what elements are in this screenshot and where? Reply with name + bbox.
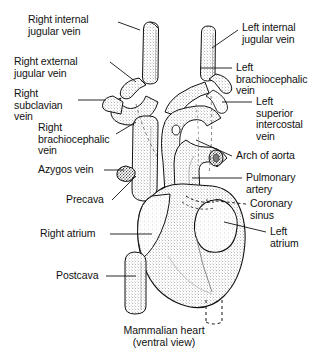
label-right-external-jugular-vein: Right external jugular vein [14, 56, 77, 79]
label-right-brachiocephalic-vein: Right brachiocephalic vein [38, 122, 109, 157]
label-right-subclavian-vein: Right subclavian vein [14, 88, 63, 123]
label-arch-of-aorta: Arch of aorta [236, 150, 295, 162]
figure-caption: Mammalian heart (ventral view) [0, 324, 328, 348]
label-pulmonary-artery: Pulmonary artery [246, 172, 295, 195]
label-left-atrium: Left atrium [270, 226, 299, 249]
caption-title: Mammalian heart [123, 324, 204, 336]
label-right-internal-jugular-vein: Right internal jugular vein [28, 14, 88, 37]
postcava-shape [125, 252, 146, 314]
left-atrium-shape [194, 200, 237, 253]
precava-shape [132, 116, 158, 201]
label-precava: Precava [66, 194, 104, 206]
label-coronary-sinus: Coronary sinus [250, 198, 292, 221]
label-left-superior-intercostal-vein: Left superior intercostal vein [256, 96, 303, 142]
aortic-highlight [172, 125, 180, 135]
label-left-internal-jugular-vein: Left internal jugular vein [242, 22, 296, 45]
label-azygos-vein: Azygos vein [38, 164, 94, 176]
leader-right-external-jugular-vein [110, 62, 136, 82]
leader-right-internal-jugular-vein [118, 22, 140, 30]
anatomical-figure: Right internal jugular vein Right extern… [0, 0, 328, 360]
label-right-atrium: Right atrium [40, 228, 95, 240]
great-vessels-group [103, 22, 246, 324]
label-postcava: Postcava [56, 270, 98, 282]
caption-subtitle: (ventral view) [133, 336, 195, 348]
right-external-jugular-vein-shape [120, 78, 146, 99]
label-left-brachiocephalic-vein: Left brachiocephalic vein [236, 62, 307, 97]
